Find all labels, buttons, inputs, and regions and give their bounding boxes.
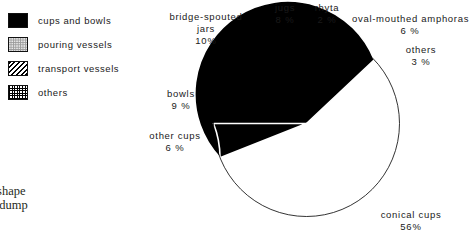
slice-label-jugs: jugs 8 % (268, 2, 302, 26)
pie-chart-figure: cups and bowls pouring vessels transport… (0, 0, 470, 237)
slice-value-other-cups: 6 % (142, 142, 208, 154)
slice-label-oval-mouthed-amphoras: oval-mouthed amphoras 6 % (352, 13, 468, 37)
slice-label-conical-cups: conical cups 56% (356, 209, 466, 233)
slice-value-conical-cups: 56% (356, 221, 466, 233)
slice-label-rhyta: rhyta 2 % (308, 2, 346, 26)
slice-label-others-name: others (406, 44, 437, 55)
pie-slice-other-cups (214, 124, 307, 158)
slice-label-conical-cups-name: conical cups (381, 209, 442, 220)
slice-value-others: 3 % (392, 56, 450, 68)
slice-value-rhyta: 2 % (308, 14, 346, 26)
slice-value-bowls: 9 % (156, 100, 206, 112)
slice-label-other-cups: other cups 6 % (142, 130, 208, 154)
slice-label-oval-mouthed-amphoras-name: oval-mouthed amphoras (352, 13, 469, 24)
slice-label-others: others 3 % (392, 44, 450, 68)
slice-label-bridge-spouted-jars-line2: jars (197, 23, 215, 34)
slice-label-bowls: bowls 9 % (156, 88, 206, 112)
slice-label-other-cups-name: other cups (149, 130, 200, 141)
slice-label-rhyta-name: rhyta (315, 2, 340, 13)
slice-label-bridge-spouted-jars-line1: bridge-spouted (169, 11, 242, 22)
slice-value-jugs: 8 % (268, 14, 302, 26)
slice-value-bridge-spouted-jars: 10% (160, 35, 252, 47)
slice-label-jugs-name: jugs (275, 2, 295, 13)
slice-label-bridge-spouted-jars: bridge-spouted jars 10% (160, 11, 252, 47)
slice-label-bowls-name: bowls (167, 88, 195, 99)
slice-value-oval-mouthed-amphoras: 6 % (352, 25, 468, 37)
